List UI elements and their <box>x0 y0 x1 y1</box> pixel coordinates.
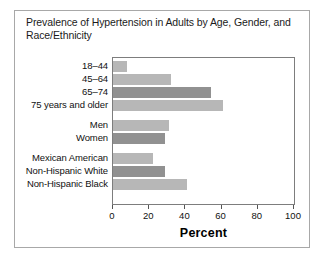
category-label: Mexican American <box>0 152 108 163</box>
x-tick-label: 20 <box>143 210 154 221</box>
bar <box>113 61 127 72</box>
bar <box>113 166 165 177</box>
category-label: Non-Hispanic White <box>0 165 108 176</box>
x-tick-label: 0 <box>109 210 114 221</box>
category-label: Men <box>0 119 108 130</box>
x-tick-mark <box>293 205 294 209</box>
x-tick-mark <box>257 205 258 209</box>
plot-area <box>113 58 294 204</box>
x-tick-mark <box>221 205 222 209</box>
category-label: Women <box>0 132 108 143</box>
bar-row <box>113 74 294 85</box>
bar <box>113 133 165 144</box>
figure-root: Prevalence of Hypertension in Adults by … <box>0 0 326 259</box>
category-label: 75 years and older <box>0 99 108 110</box>
category-label: 45–64 <box>0 73 108 84</box>
bar <box>113 87 211 98</box>
bar-row <box>113 179 294 190</box>
chart-title: Prevalence of Hypertension in Adults by … <box>26 16 298 42</box>
category-label-column: 18–4445–6465–7475 years and olderMenWome… <box>0 58 108 204</box>
bar-row <box>113 153 294 164</box>
bar <box>113 120 169 131</box>
x-axis-title: Percent <box>112 226 295 240</box>
x-tick-label: 40 <box>179 210 190 221</box>
bar-row <box>113 120 294 131</box>
category-label: 18–44 <box>0 60 108 71</box>
bar-row <box>113 61 294 72</box>
category-label: Non-Hispanic Black <box>0 178 108 189</box>
bar-row <box>113 133 294 144</box>
bar-row <box>113 100 294 111</box>
category-label: 65–74 <box>0 86 108 97</box>
bar <box>113 74 171 85</box>
x-tick-label: 100 <box>285 210 301 221</box>
x-tick-mark <box>184 205 185 209</box>
x-tick-label: 80 <box>252 210 263 221</box>
bar <box>113 153 153 164</box>
x-tick-mark <box>148 205 149 209</box>
bar <box>113 179 187 190</box>
bar-row <box>113 87 294 98</box>
x-tick-label: 60 <box>215 210 226 221</box>
bar-row <box>113 166 294 177</box>
x-tick-mark <box>112 205 113 209</box>
bar <box>113 100 223 111</box>
